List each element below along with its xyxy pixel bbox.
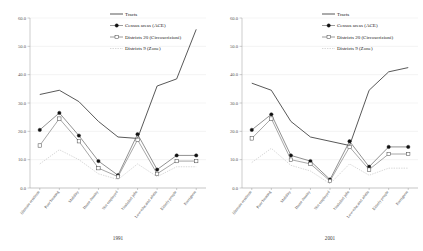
x-tick-label: Unskilled jobs — [332, 189, 351, 211]
chart-year-label: 2001 — [324, 235, 335, 241]
data-point-marker — [406, 145, 409, 148]
series-line — [40, 29, 196, 138]
data-point-marker — [116, 175, 119, 178]
x-tick-label: Poor housing — [255, 190, 272, 210]
data-point-marker — [38, 144, 41, 147]
y-tick-label: 20.0 — [229, 129, 238, 134]
x-tick-label: Elderly people — [159, 189, 178, 211]
legend-label: Districts 20 (Circoscrizioni) — [125, 35, 181, 40]
x-tick-label: Not employed — [101, 190, 119, 211]
data-point-marker — [328, 179, 331, 182]
x-tick-label: Unskilled jobs — [120, 189, 139, 211]
legend-marker — [115, 35, 118, 38]
data-point-marker — [77, 134, 80, 137]
data-point-marker — [77, 140, 80, 143]
series-line — [251, 119, 407, 181]
data-point-marker — [97, 166, 100, 169]
x-tick-label: Home density — [293, 190, 311, 211]
data-point-marker — [195, 154, 198, 157]
data-point-marker — [97, 159, 100, 162]
chart-panels: 0.010.020.030.040.050.060.0Illiterate re… — [0, 0, 423, 251]
y-tick-label: 20.0 — [18, 129, 27, 134]
data-point-marker — [136, 138, 139, 141]
x-tick-label: Mobility — [279, 190, 292, 204]
chart-year-label: 1991 — [113, 235, 124, 241]
x-tick-label: Home density — [82, 190, 100, 211]
series-line — [251, 68, 407, 146]
x-tick-label: Foreigners — [394, 189, 409, 206]
x-tick-label: Elderly people — [371, 189, 390, 211]
data-point-marker — [136, 132, 139, 135]
data-point-marker — [155, 172, 158, 175]
x-tick-label: Illiterate residents — [19, 189, 41, 215]
y-tick-label: 60.0 — [18, 16, 27, 21]
legend-label: Tracts — [337, 12, 349, 17]
legend-label: Census areas (ACE) — [125, 23, 166, 28]
data-point-marker — [386, 152, 389, 155]
data-point-marker — [155, 168, 158, 171]
y-tick-label: 50.0 — [18, 44, 27, 49]
line-chart-1991: 0.010.020.030.040.050.060.0Illiterate re… — [0, 0, 212, 251]
x-tick-label: Illiterate residents — [230, 189, 252, 215]
x-tick-label: Not employed — [312, 190, 330, 211]
y-tick-label: 10.0 — [229, 157, 238, 162]
x-tick-label: Poor housing — [43, 190, 60, 210]
data-point-marker — [289, 158, 292, 161]
chart-panel-1991: 0.010.020.030.040.050.060.0Illiterate re… — [0, 0, 212, 251]
legend-label: Districts 20 (Circoscrizioni) — [337, 35, 393, 40]
data-point-marker — [347, 145, 350, 148]
legend-marker — [327, 35, 330, 38]
y-tick-label: 40.0 — [18, 72, 27, 77]
data-point-marker — [308, 162, 311, 165]
data-point-marker — [269, 113, 272, 116]
y-tick-label: 10.0 — [18, 157, 27, 162]
chart-panel-2001: 0.010.020.030.040.050.060.0Illiterate re… — [212, 0, 423, 251]
data-point-marker — [250, 128, 253, 131]
y-tick-label: 40.0 — [229, 72, 238, 77]
y-tick-label: 0.0 — [20, 186, 26, 191]
series-line — [40, 119, 196, 177]
legend-marker — [115, 24, 118, 27]
y-tick-label: 60.0 — [229, 16, 238, 21]
legend-marker — [327, 24, 330, 27]
legend-label: Districts 9 (Zone) — [337, 46, 373, 51]
y-tick-label: 0.0 — [232, 186, 238, 191]
plot-area-2001: 0.010.020.030.040.050.060.0Illiterate re… — [212, 0, 423, 251]
plot-area-1991: 0.010.020.030.040.050.060.0Illiterate re… — [0, 0, 212, 251]
legend-label: Tracts — [125, 12, 137, 17]
x-tick-label: Foreigners — [183, 189, 198, 206]
data-point-marker — [347, 140, 350, 143]
data-point-marker — [175, 159, 178, 162]
y-tick-label: 30.0 — [229, 101, 238, 106]
legend-label: Census areas (ACE) — [337, 23, 378, 28]
y-tick-label: 50.0 — [229, 44, 238, 49]
x-tick-label: Mobility — [67, 190, 80, 204]
data-point-marker — [195, 159, 198, 162]
data-point-marker — [250, 137, 253, 140]
data-point-marker — [367, 168, 370, 171]
series-line — [40, 113, 196, 175]
data-point-marker — [58, 111, 61, 114]
data-point-marker — [175, 154, 178, 157]
data-point-marker — [58, 117, 61, 120]
line-chart-2001: 0.010.020.030.040.050.060.0Illiterate re… — [212, 0, 423, 251]
data-point-marker — [386, 145, 389, 148]
data-point-marker — [406, 152, 409, 155]
legend-label: Districts 9 (Zone) — [125, 46, 161, 51]
data-point-marker — [38, 128, 41, 131]
y-tick-label: 30.0 — [18, 101, 27, 106]
data-point-marker — [269, 117, 272, 120]
